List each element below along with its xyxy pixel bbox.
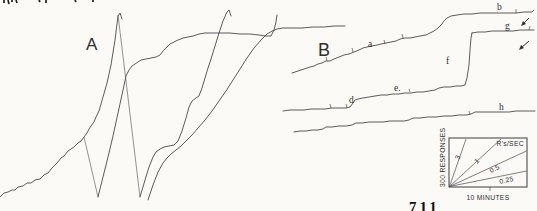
record-mark-b: b: [497, 2, 502, 12]
cropped-text-fragments: [4, 0, 93, 4]
legend-rate-unit: R's/SEC: [496, 140, 524, 147]
rate-label-0-5: 0.5: [488, 163, 500, 174]
event-arrow-lower: [519, 41, 529, 50]
rate-ray-3: [450, 139, 467, 187]
record-mark-d: d: [349, 95, 354, 105]
record-mark-g: g: [505, 21, 510, 31]
event-arrow-upper: [521, 18, 529, 26]
record-mark-h: h: [499, 102, 504, 112]
reset-line-1: [84, 137, 98, 197]
panel-a-records: A: [0, 10, 345, 200]
scanned-paper-figure: A B a b d e. f g h: [0, 0, 537, 211]
record-mark-e: e.: [394, 83, 401, 93]
panel-b-records: B a b d e. f g h: [283, 2, 535, 132]
legend-x-axis-label: 10 MINUTES: [466, 194, 509, 201]
cumulative-record-a2: [98, 15, 277, 197]
panel-a-label: A: [86, 35, 98, 54]
page-number: 711: [409, 199, 440, 211]
figure-canvas: A B a b d e. f g h: [0, 0, 537, 211]
record-g-tick: [529, 26, 530, 30]
cumulative-record-a1: [0, 13, 122, 197]
panel-b-label: B: [318, 40, 330, 60]
record-mark-a: a: [368, 39, 373, 49]
cumulative-record-g: [472, 30, 534, 33]
record-mark-f: f: [446, 56, 450, 66]
rate-ray-0-25: [450, 171, 527, 187]
cumulative-record-h: [294, 111, 535, 132]
record-pip-ticks: [326, 9, 516, 61]
cumulative-record-a4: [148, 26, 345, 200]
reset-line-2: [118, 15, 140, 197]
legend-y-axis-label: 300 RESPONSES: [439, 127, 446, 187]
rate-legend: 3 1 0.5 0.25 R's/SEC 300 RESPONSES 10 MI…: [439, 127, 527, 201]
